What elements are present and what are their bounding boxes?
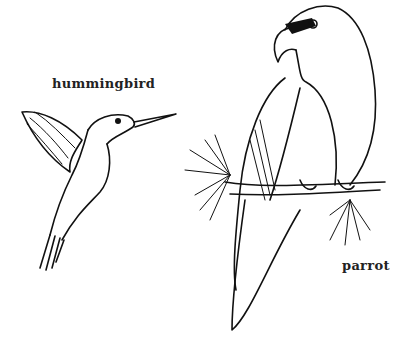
parrot-drawing xyxy=(185,6,385,330)
parrot-tail xyxy=(232,200,300,330)
hummingbird-tail xyxy=(40,235,64,270)
parrot-chest xyxy=(296,50,336,185)
pine-needles-left xyxy=(185,135,230,220)
hummingbird-drawing xyxy=(22,112,176,270)
hummingbird-back xyxy=(50,130,88,235)
parrot-label: parrot xyxy=(342,258,390,273)
hummingbird-beak xyxy=(134,114,176,127)
hummingbird-belly xyxy=(62,144,110,240)
hummingbird-label: hummingbird xyxy=(52,76,155,91)
pine-needles-right xyxy=(330,200,370,245)
hummingbird-eye xyxy=(115,118,121,124)
hummingbird-head xyxy=(88,115,134,144)
parrot-branch xyxy=(225,182,385,195)
hummingbird-wing xyxy=(22,112,82,172)
bird-illustration xyxy=(0,0,412,344)
